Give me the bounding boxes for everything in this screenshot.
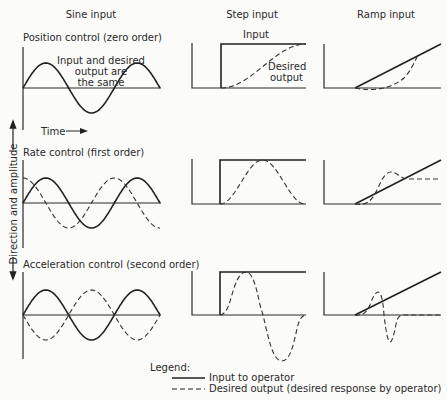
annotation-input: Input xyxy=(243,29,269,40)
input-curve xyxy=(355,272,441,315)
legend: Legend: Input to operator Desired output… xyxy=(150,362,442,394)
panel-rate-sine xyxy=(23,160,161,248)
panel-position-ramp xyxy=(324,44,441,90)
panel-position-sine: Input and desired output are the same xyxy=(23,47,161,130)
column-header-step: Step input xyxy=(226,9,278,20)
legend-item-desired-output: Desired output (desired response by oper… xyxy=(209,383,442,394)
panel-acceleration-step xyxy=(192,271,306,361)
row-label-acceleration: Acceleration control (second order) xyxy=(23,259,200,270)
input-curve xyxy=(220,160,306,204)
y-axis-label: Direction and amplitude xyxy=(8,144,19,265)
time-label: Time xyxy=(40,126,65,137)
desired-output-curve xyxy=(355,172,441,204)
column-header-sine: Sine input xyxy=(66,9,117,20)
diagram-canvas: Sine input Step input Ramp input Positio… xyxy=(0,0,447,400)
annotation-same: Input and desired xyxy=(57,55,145,66)
direction-arrow: Direction and amplitude xyxy=(8,124,19,276)
desired-output-curve xyxy=(220,272,306,361)
panel-acceleration-sine xyxy=(23,272,161,359)
row-label-rate: Rate control (first order) xyxy=(23,147,144,158)
legend-title: Legend: xyxy=(150,362,190,373)
control-order-diagram: Sine input Step input Ramp input Positio… xyxy=(0,0,447,400)
input-curve xyxy=(355,160,441,204)
legend-item-input: Input to operator xyxy=(209,372,295,383)
column-header-ramp: Ramp input xyxy=(357,9,415,20)
row-label-position: Position control (zero order) xyxy=(23,32,162,43)
annotation-desired-output: Desired xyxy=(268,61,306,72)
input-curve xyxy=(220,272,306,315)
panel-rate-step xyxy=(192,159,306,204)
desired-output-curve xyxy=(220,160,305,204)
panel-position-step: Input Desired output xyxy=(192,29,306,88)
annotation-same: the same xyxy=(78,77,125,88)
desired-output-curve xyxy=(355,292,441,342)
annotation-same: output are xyxy=(75,66,127,77)
panel-rate-ramp xyxy=(324,160,441,204)
input-curve xyxy=(355,44,441,88)
annotation-desired-output: output xyxy=(270,72,303,83)
panel-acceleration-ramp xyxy=(324,272,441,342)
